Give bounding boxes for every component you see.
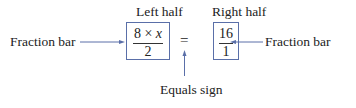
equation-parts-diagram: Left half Right half Fraction bar Fracti… xyxy=(0,0,356,108)
arrows-layer xyxy=(0,0,356,108)
arrow-to-left-fraction-bar-icon xyxy=(80,40,125,44)
arrow-to-equals-sign-icon xyxy=(183,50,187,76)
arrow-to-right-fraction-bar-icon xyxy=(230,40,263,44)
